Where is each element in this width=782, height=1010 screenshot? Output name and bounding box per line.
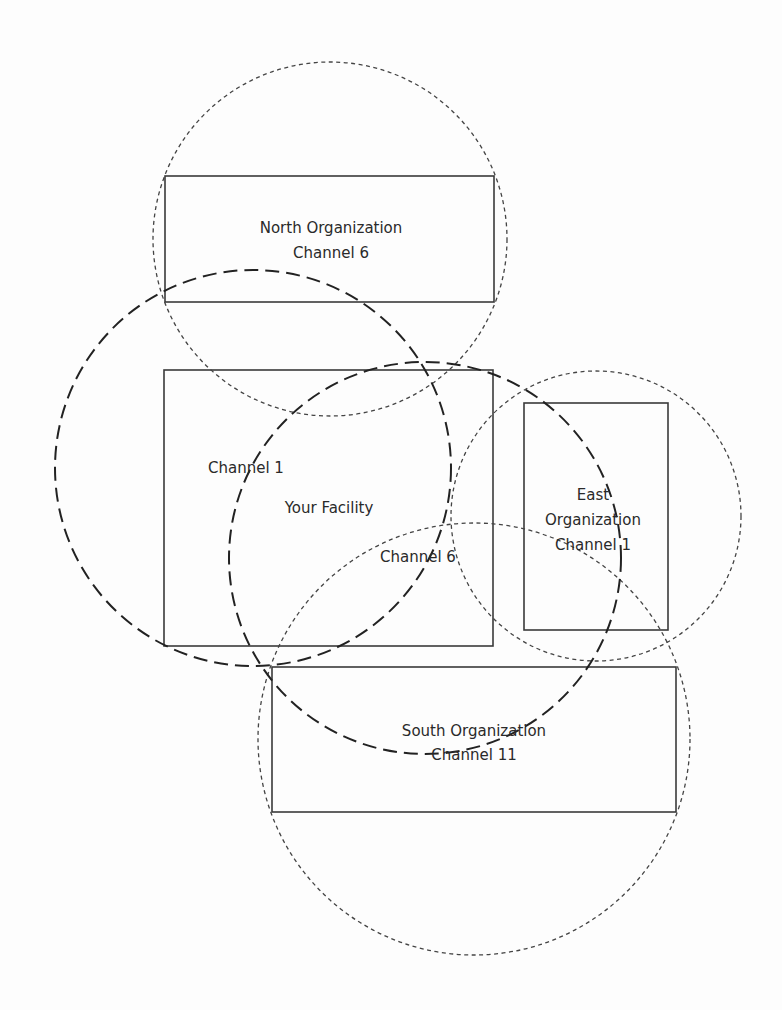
channel-overlap-diagram: North Organization Channel 6 Channel 1 Y… bbox=[0, 0, 782, 1010]
facility-channel6-label: Channel 6 bbox=[380, 548, 456, 566]
east-channel-label: Channel 1 bbox=[555, 536, 631, 554]
north-organization-box bbox=[165, 176, 494, 302]
south-organization-label: South Organization bbox=[402, 722, 546, 740]
north-organization-label: North Organization bbox=[260, 219, 403, 237]
north-channel-label: Channel 6 bbox=[293, 244, 369, 262]
south-channel-label: Channel 11 bbox=[431, 746, 516, 764]
your-facility-label: Your Facility bbox=[284, 499, 374, 517]
facility-channel1-label: Channel 1 bbox=[208, 459, 284, 477]
east-name-line2: Organization bbox=[545, 511, 641, 529]
east-name-line1: East bbox=[577, 486, 609, 504]
north-coverage-circle bbox=[153, 62, 507, 416]
